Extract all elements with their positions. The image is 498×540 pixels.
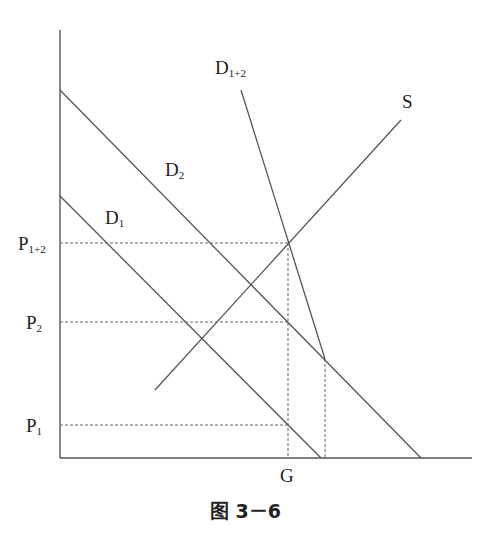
label-d1-plus-2: D1+2 xyxy=(215,58,246,79)
curve-d1-plus-2 xyxy=(241,90,325,359)
label-s: S xyxy=(402,92,413,111)
label-p1-plus-2: P1+2 xyxy=(18,234,46,255)
label-p1: P1 xyxy=(26,416,42,437)
guide-lines xyxy=(60,243,325,458)
curve-d1 xyxy=(60,196,321,458)
label-d1: D1 xyxy=(105,208,124,229)
label-d2: D2 xyxy=(165,160,184,181)
label-p2: P2 xyxy=(26,313,42,334)
curve-s xyxy=(155,120,401,390)
curve-d2 xyxy=(60,90,421,458)
diagram-canvas xyxy=(0,0,498,540)
label-g: G xyxy=(280,466,294,485)
figure-caption: 图 3－6 xyxy=(210,496,281,523)
